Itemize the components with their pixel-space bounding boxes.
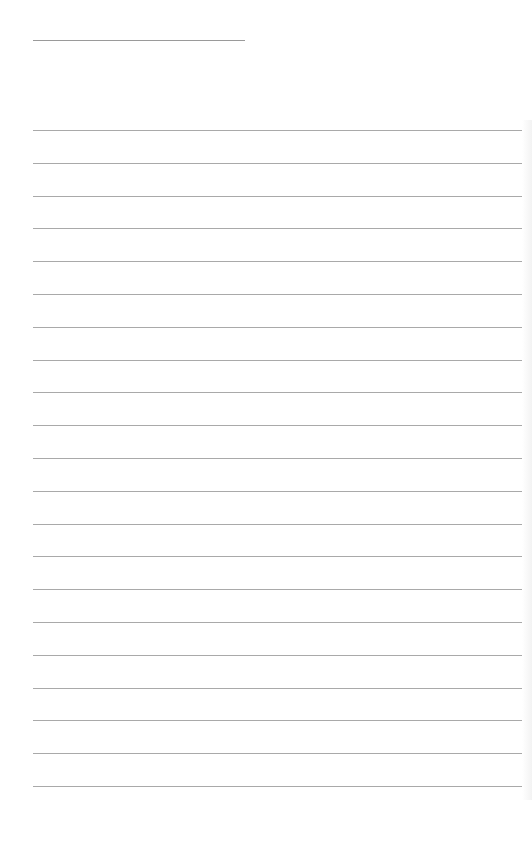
ruled-line [33,163,522,164]
ruled-line [33,655,522,656]
ruled-line [33,294,522,295]
ruled-line [33,360,522,361]
ruled-line [33,261,522,262]
ruled-line [33,589,522,590]
ruled-line [33,425,522,426]
ruled-line [33,524,522,525]
ruled-line [33,688,522,689]
ruled-line [33,196,522,197]
ruled-line [33,392,522,393]
ruled-line [33,556,522,557]
ruled-line [33,786,522,787]
ruled-line [33,720,522,721]
ruled-line [33,622,522,623]
ruled-line [33,327,522,328]
header-rule-line [33,40,245,41]
ruled-line [33,491,522,492]
ruled-line [33,753,522,754]
notepaper-page [0,0,532,850]
ruled-line [33,458,522,459]
ruled-line [33,130,522,131]
ruled-line [33,228,522,229]
page-edge-shadow [522,120,532,800]
